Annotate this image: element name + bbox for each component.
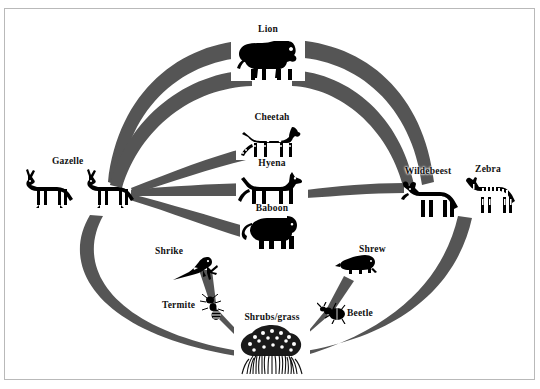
arrow-shrubs-to-zebra (300, 216, 472, 357)
node-label-shrubs-grass: Shrubs/grass (244, 312, 299, 323)
shrew-icon (335, 252, 377, 276)
arrow-wildebeest-to-lion-inner (292, 70, 414, 186)
node-label-termite: Termite (162, 300, 195, 311)
arrow-wildebeest-to-hyena (306, 183, 404, 198)
node-shrew[interactable]: Shrew (335, 252, 377, 276)
node-wildebeest[interactable]: Wildebeest (397, 166, 459, 219)
node-shrike[interactable]: Shrike (171, 246, 227, 286)
food-web-diagram: Lion Cheetah (0, 0, 540, 389)
gazelle-icon (15, 168, 73, 208)
node-zebra[interactable]: Zebra (459, 164, 517, 215)
hyena-icon (237, 169, 307, 207)
node-gazelle-left[interactable] (15, 168, 73, 208)
node-label-lion: Lion (258, 24, 278, 35)
shrubs-grass-icon (233, 323, 311, 375)
zebra-icon (459, 175, 517, 215)
node-baboon[interactable]: Baboon (241, 203, 303, 250)
node-label-wildebeest: Wildebeest (405, 166, 452, 177)
node-label-shrike: Shrike (155, 246, 183, 257)
node-hyena[interactable]: Hyena (237, 158, 307, 207)
node-cheetah[interactable]: Cheetah (238, 112, 306, 163)
node-label-cheetah: Cheetah (254, 112, 289, 123)
node-shrubs-grass[interactable]: Shrubs/grass (233, 312, 311, 375)
arrow-shrubs-to-gazelle (80, 215, 244, 357)
wildebeest-icon (397, 177, 459, 219)
node-termite[interactable]: Termite (200, 294, 228, 320)
node-label-baboon: Baboon (256, 203, 288, 214)
node-label-hyena: Hyena (258, 158, 285, 169)
node-gazelle[interactable]: Gazelle (76, 168, 134, 208)
node-label-zebra: Zebra (475, 164, 501, 175)
beetle-icon (317, 302, 347, 324)
baboon-icon (241, 214, 303, 250)
node-beetle[interactable]: Beetle (317, 302, 347, 324)
lion-icon (231, 35, 305, 81)
node-label-shrew: Shrew (359, 244, 386, 255)
termite-icon (200, 294, 228, 320)
shrike-icon (171, 254, 227, 286)
node-label-beetle: Beetle (347, 308, 373, 319)
node-label-gazelle: Gazelle (52, 156, 83, 167)
node-lion[interactable]: Lion (231, 24, 305, 81)
arrow-gazelle-to-baboon (130, 194, 244, 238)
gazelle-icon (76, 168, 134, 208)
cheetah-icon (238, 123, 306, 163)
